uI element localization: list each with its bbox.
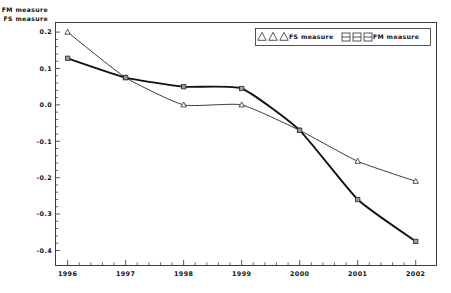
y-axis-tick-labels: 0.20.10.0-0.1-0.2-0.3-0.4 (36, 28, 52, 254)
y-tick-label: 0.1 (39, 65, 52, 73)
plot-frame (56, 23, 437, 266)
legend-label: FS measure (289, 33, 334, 40)
y-tick-label: -0.2 (36, 174, 52, 182)
chart-container: FM measure FS measure 0.20.10.0-0.1-0.2-… (0, 0, 451, 293)
x-tick-label: 1998 (174, 270, 194, 278)
chart-legend: FS measureFM measure (256, 29, 431, 46)
legend-entries: FS measureFM measure (258, 32, 419, 41)
legend-label: FM measure (373, 33, 419, 40)
legend-marker-triangle (258, 32, 266, 40)
data-point-fs (65, 29, 70, 34)
x-tick-label: 1999 (232, 270, 252, 278)
series-lines (68, 32, 416, 241)
y-tick-label: 0.0 (39, 101, 52, 109)
x-tick-label: 1996 (58, 270, 78, 278)
series-line-fm (68, 58, 416, 241)
x-tick-label: 2001 (348, 270, 367, 278)
x-tick-label: 1997 (116, 270, 135, 278)
x-tick-label: 2000 (290, 270, 310, 278)
y-axis-title-line2: FS measure (4, 15, 49, 22)
y-tick-label: -0.3 (36, 210, 52, 218)
legend-marker-triangle (280, 32, 288, 40)
series-markers (65, 29, 418, 243)
data-point-fm (65, 56, 69, 60)
x-axis-tick-labels: 1996199719981999200020012002 (58, 270, 425, 278)
data-point-fm (239, 86, 243, 90)
data-point-fm (123, 75, 127, 79)
y-tick-label: -0.1 (36, 138, 52, 146)
x-tick-label: 2002 (406, 270, 425, 278)
y-axis-ticks (56, 32, 60, 250)
line-chart: FM measure FS measure 0.20.10.0-0.1-0.2-… (0, 0, 451, 293)
data-point-fm (297, 128, 301, 132)
data-point-fm (355, 197, 359, 201)
y-axis-title-line1: FM measure (2, 6, 48, 13)
y-tick-label: 0.2 (39, 28, 52, 36)
data-point-fm (413, 239, 417, 243)
legend-marker-triangle (269, 32, 277, 40)
data-point-fm (181, 84, 185, 88)
y-tick-label: -0.4 (36, 247, 52, 255)
x-axis-ticks (68, 260, 416, 265)
